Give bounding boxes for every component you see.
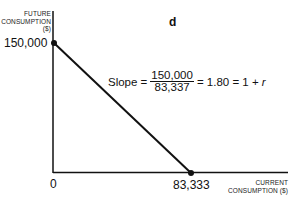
x-axis-title-line-2: CONSUMPTION ($) [225,187,288,195]
slope-value: = 1.80 = 1 + [197,76,259,88]
slope-fraction: 150,000 83,337 [150,70,194,93]
y-axis-title: FUTURE CONSUMPTION ($) [0,10,51,33]
panel-label: d [169,15,176,29]
y-tick-150000: 150,000 [4,36,47,50]
point-x-intercept [188,170,194,176]
x-tick-0: 0 [50,177,57,191]
slope-denominator: 83,337 [155,82,190,93]
slope-prefix: Slope = [108,76,147,88]
slope-variable: r [262,76,266,88]
slope-annotation: Slope = 150,000 83,337 = 1.80 = 1 + r [108,70,265,93]
x-axis-title: CURRENT CONSUMPTION ($) [225,179,288,194]
point-y-intercept [51,40,57,46]
y-axis-title-line-3: ($) [0,25,51,33]
x-tick-83333: 83,333 [173,178,210,192]
budget-line [54,43,191,173]
y-axis-title-line-1: FUTURE [0,10,51,18]
y-axis-title-line-2: CONSUMPTION [0,18,51,26]
x-axis-title-line-1: CURRENT [225,179,288,187]
